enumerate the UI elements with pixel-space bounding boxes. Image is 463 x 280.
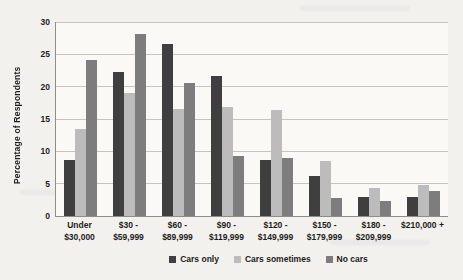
bar-group xyxy=(399,22,448,216)
y-tick-label: 15 xyxy=(28,114,50,124)
x-tick-label: $120 - $149,999 xyxy=(251,220,300,244)
bar-cars-only xyxy=(113,72,124,216)
legend: Cars onlyCars sometimesNo cars xyxy=(37,254,463,264)
y-axis-title: Percentage of Respondents xyxy=(12,50,22,200)
x-tick-label: $210,000 + xyxy=(398,220,447,244)
x-axis-tick-labels: Under $30,000$30 - $59,999$60 - $89,999$… xyxy=(55,220,447,244)
bar-cars-only xyxy=(64,160,75,216)
bar-group xyxy=(105,22,154,216)
legend-swatch-icon xyxy=(326,256,333,263)
bar-cars-only xyxy=(407,197,418,216)
bar-cars-only xyxy=(358,197,369,216)
bar-cars-only xyxy=(162,44,173,216)
bar-no-cars xyxy=(233,156,244,216)
legend-swatch-icon xyxy=(234,256,241,263)
bar-no-cars xyxy=(184,83,195,216)
bar-cars-only xyxy=(309,176,320,216)
bar-cars-sometimes xyxy=(369,188,380,216)
x-tick-label: $60 - $89,999 xyxy=(153,220,202,244)
bar-cars-sometimes xyxy=(222,107,233,216)
bar-no-cars xyxy=(429,191,440,216)
bar-group xyxy=(56,22,105,216)
y-tick-label: 30 xyxy=(28,17,50,27)
bar-cars-sometimes xyxy=(124,93,135,217)
x-tick-label: $90 - $119,999 xyxy=(202,220,251,244)
bar-no-cars xyxy=(282,158,293,216)
y-tick-label: 10 xyxy=(28,146,50,156)
y-tick-label: 0 xyxy=(28,211,50,221)
bar-series-container xyxy=(56,22,448,216)
bar-no-cars xyxy=(135,34,146,216)
scanned-page: Percentage of Respondents 051015202530 U… xyxy=(0,0,463,280)
bar-group xyxy=(301,22,350,216)
bar-cars-sometimes xyxy=(271,110,282,216)
bar-cars-sometimes xyxy=(75,129,86,216)
bar-cars-only xyxy=(211,76,222,216)
bar-group xyxy=(350,22,399,216)
legend-item: No cars xyxy=(326,254,368,264)
bar-cars-only xyxy=(260,160,271,216)
bar-no-cars xyxy=(331,198,342,216)
bar-no-cars xyxy=(380,201,391,216)
x-tick-label: $30 - $59,999 xyxy=(104,220,153,244)
bar-group xyxy=(154,22,203,216)
scan-bleed-artifact xyxy=(300,6,410,11)
legend-item: Cars sometimes xyxy=(234,254,311,264)
y-tick-label: 25 xyxy=(28,49,50,59)
bar-no-cars xyxy=(86,60,97,216)
bar-cars-sometimes xyxy=(418,185,429,216)
y-tick-label: 20 xyxy=(28,82,50,92)
x-tick-label: Under $30,000 xyxy=(55,220,104,244)
bar-group xyxy=(203,22,252,216)
legend-label: No cars xyxy=(337,254,368,264)
bar-cars-sometimes xyxy=(173,109,184,216)
y-tick-label: 5 xyxy=(28,179,50,189)
x-tick-label: $150 - $179,999 xyxy=(300,220,349,244)
x-tick-label: $180 - $209,999 xyxy=(349,220,398,244)
legend-item: Cars only xyxy=(169,254,219,264)
bar-cars-sometimes xyxy=(320,161,331,216)
plot-area xyxy=(55,22,448,217)
bar-group xyxy=(252,22,301,216)
legend-swatch-icon xyxy=(169,256,176,263)
legend-label: Cars only xyxy=(180,254,219,264)
legend-label: Cars sometimes xyxy=(245,254,311,264)
